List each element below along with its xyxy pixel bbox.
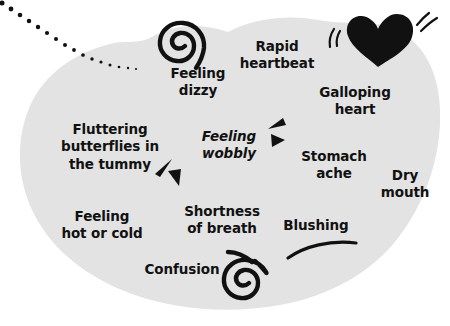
label-dry-mouth: Dry mouth: [381, 167, 430, 202]
illustration-canvas: Feeling dizzy Rapid heartbeat Galloping …: [0, 0, 450, 326]
label-galloping-heart: Galloping heart: [319, 84, 390, 119]
label-blushing: Blushing: [283, 217, 348, 234]
label-fluttering-butterflies: Fluttering butterflies in the tummy: [61, 121, 159, 173]
label-confusion: Confusion: [145, 261, 220, 278]
label-rapid-heartbeat: Rapid heartbeat: [240, 38, 314, 73]
label-feeling-dizzy: Feeling dizzy: [171, 65, 226, 100]
label-feeling-wobbly: Feeling wobbly: [202, 128, 256, 163]
label-stomach-ache: Stomach ache: [301, 148, 367, 183]
label-feeling-hot-or-cold: Feeling hot or cold: [61, 208, 142, 243]
label-shortness-of-breath: Shortness of breath: [184, 203, 260, 238]
